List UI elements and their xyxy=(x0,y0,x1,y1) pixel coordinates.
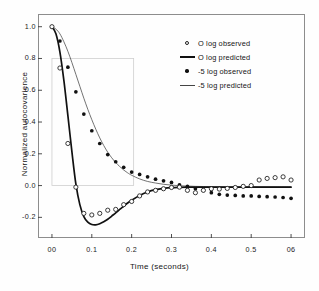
legend-item: O log observed xyxy=(176,36,296,50)
legend-filled-circle-icon xyxy=(176,64,198,78)
legend-item: O log predicted xyxy=(176,50,296,64)
legend-filled-circle-icon-glyph xyxy=(185,69,188,72)
y-tick-label: 1.0 xyxy=(10,22,36,31)
y-axis-title-wrap: Normalized autocovarience xyxy=(13,44,31,204)
x-tick-label: 0.4 xyxy=(196,245,226,254)
x-axis-title: Time (seconds) xyxy=(0,262,319,271)
x-tick-label: 00 xyxy=(37,245,67,254)
y-axis-ticks xyxy=(38,27,42,218)
x-tick-label: 0.3 xyxy=(157,245,187,254)
legend-open-circle-icon xyxy=(176,36,198,50)
legend-thick-line-icon-glyph xyxy=(180,56,195,58)
chart-legend: O log observedO log predicted-5 log obse… xyxy=(176,36,296,92)
x-axis-ticks xyxy=(52,234,291,238)
x-axis-tick-labels: 000.10.20.30.40.506 xyxy=(0,245,319,259)
y-tick-label: -0.2 xyxy=(10,212,36,221)
legend-thick-line-icon xyxy=(176,50,198,64)
x-tick-label: 0.1 xyxy=(77,245,107,254)
x-tick-label: 06 xyxy=(276,245,306,254)
y-axis-title: Normalized autocovarience xyxy=(20,72,29,176)
legend-item: -5 log predicted xyxy=(176,78,296,92)
x-tick-label: 0.5 xyxy=(236,245,266,254)
legend-thin-line-icon xyxy=(176,78,198,92)
legend-item: -5 log observed xyxy=(176,64,296,78)
legend-item-label: -5 log observed xyxy=(198,67,251,76)
legend-item-label: -5 log predicted xyxy=(198,81,251,90)
legend-open-circle-icon-glyph xyxy=(185,41,189,45)
legend-thin-line-icon-glyph xyxy=(180,85,195,86)
legend-item-label: O log predicted xyxy=(198,53,250,62)
legend-item-label: O log observed xyxy=(198,39,250,48)
x-tick-label: 0.2 xyxy=(117,245,147,254)
chart-figure: 1.00.80.60.40.20.0-0.2 000.10.20.30.40.5… xyxy=(0,0,319,291)
